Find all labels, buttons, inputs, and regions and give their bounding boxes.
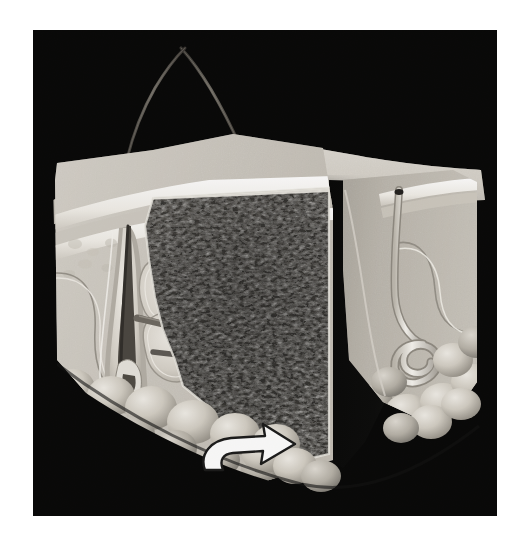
figure-page: Cross-section of human skin (three-dimen… [0, 0, 520, 543]
skin-cross-section-illustration [33, 30, 497, 516]
illustration-frame [33, 30, 497, 516]
global-halftone-grain [33, 30, 497, 516]
